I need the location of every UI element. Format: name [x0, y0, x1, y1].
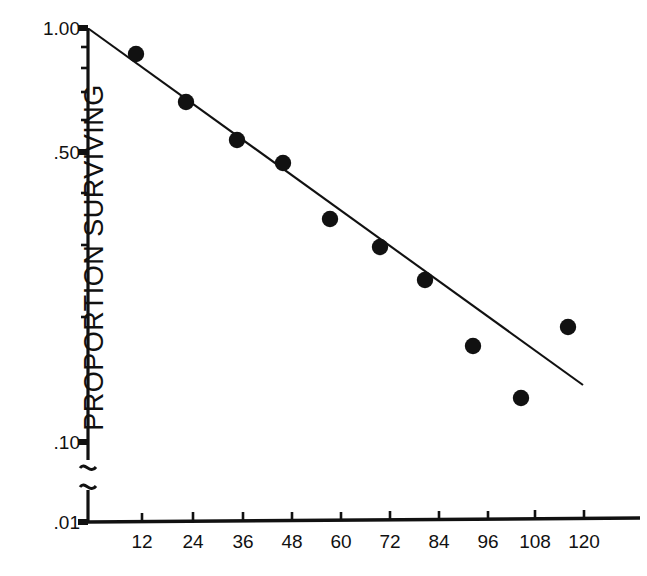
data-point: [229, 132, 245, 148]
data-point: [560, 319, 576, 335]
chart-figure: PROPORTION SURVIVING 1.00 .50 .10 .01 12…: [0, 0, 647, 576]
data-points: [128, 46, 576, 406]
data-point: [275, 155, 291, 171]
x-axis: [88, 518, 640, 522]
plot-area: [0, 0, 647, 576]
data-point: [513, 390, 529, 406]
data-point: [417, 272, 433, 288]
fitted-regression-line: [89, 29, 583, 385]
data-point: [372, 239, 388, 255]
data-point: [322, 211, 338, 227]
data-point: [465, 338, 481, 354]
x-axis-line: [88, 518, 640, 522]
data-point: [128, 46, 144, 62]
y-axis-break-symbol: [80, 466, 96, 489]
data-point: [178, 94, 194, 110]
